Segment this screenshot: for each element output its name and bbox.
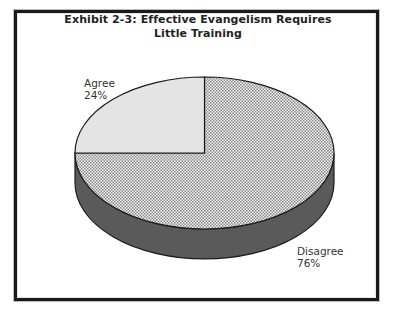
label-disagree: Disagree 76% [297, 245, 344, 269]
label-disagree-value: 76% [297, 257, 344, 269]
label-agree: Agree 24% [84, 77, 115, 101]
label-agree-value: 24% [84, 89, 115, 101]
label-agree-name: Agree [84, 77, 115, 89]
label-disagree-name: Disagree [297, 245, 344, 257]
